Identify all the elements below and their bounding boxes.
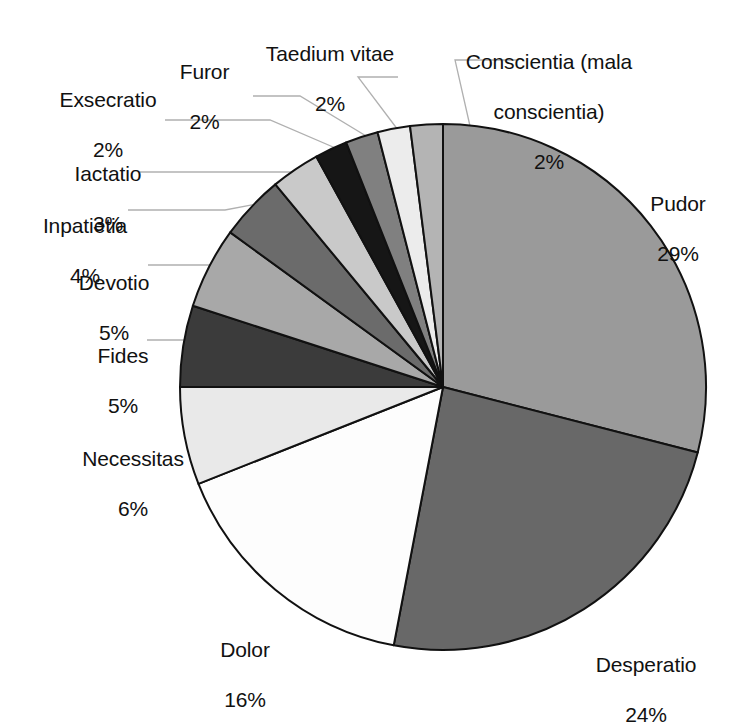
pie-label-necessitas: Necessitas 6% xyxy=(58,421,208,546)
pie-label-value-taedium-vitae: 2% xyxy=(250,91,410,116)
pie-label-value-pudor: 29% xyxy=(628,241,728,266)
pie-label-name-devotio: Devotio xyxy=(48,270,180,295)
pie-label-taedium-vitae: Taedium vitae 2% xyxy=(250,16,410,141)
pie-label-dolor: Dolor 16% xyxy=(190,612,300,726)
pie-label-value-fides: 5% xyxy=(66,393,180,418)
pie-label-name-fides: Fides xyxy=(66,343,180,368)
pie-label-name-necessitas: Necessitas xyxy=(58,446,208,471)
pie-label-name-inpatietia: Inpatietia xyxy=(14,213,156,238)
pie-label-name-conscientia-line2: conscientia) xyxy=(434,99,664,124)
pie-label-name-desperatio: Desperatio xyxy=(572,652,720,677)
pie-label-value-dolor: 16% xyxy=(190,687,300,712)
pie-label-name-conscientia-line1: Conscientia (mala xyxy=(434,49,664,74)
pie-label-name-dolor: Dolor xyxy=(190,637,300,662)
pie-label-name-pudor: Pudor xyxy=(628,191,728,216)
pie-label-desperatio: Desperatio 24% xyxy=(572,627,720,726)
pie-label-pudor: Pudor 29% xyxy=(628,166,728,291)
pie-label-name-exsecratio: Exsecratio xyxy=(38,87,178,112)
pie-label-value-desperatio: 24% xyxy=(572,702,720,726)
pie-label-value-necessitas: 6% xyxy=(58,496,208,521)
pie-label-name-iactatio: Iactatio xyxy=(44,161,172,186)
pie-label-name-taedium-vitae: Taedium vitae xyxy=(250,41,410,66)
